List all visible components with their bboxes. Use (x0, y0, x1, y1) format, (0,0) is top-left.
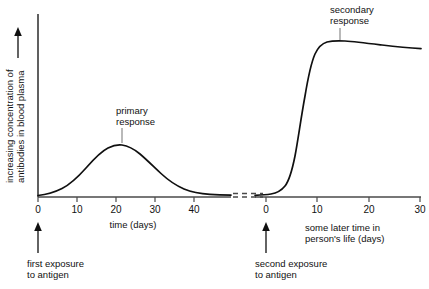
left-tick-label-0: 0 (35, 204, 41, 215)
left-tick-label-30: 30 (149, 204, 161, 215)
y-axis-title-line2: antibodies in blood plasma (15, 70, 26, 183)
first-exposure-annotation-line1: first exposure (27, 258, 84, 269)
left-tick-label-20: 20 (110, 204, 122, 215)
panel-left: 0 10 20 30 40 time (days) primary respon… (27, 105, 231, 280)
chart-svg: increasing concentration of antibodies i… (0, 0, 429, 289)
panel-right: 0 10 20 30 some later time in person's l… (255, 4, 426, 280)
second-exposure-annotation-line2: to antigen (255, 269, 297, 280)
first-exposure-arrow-icon (34, 222, 42, 253)
secondary-response-curve (255, 41, 421, 196)
primary-response-curve (38, 145, 231, 196)
immune-response-chart-figure: increasing concentration of antibodies i… (0, 0, 429, 289)
second-exposure-arrow-icon (262, 222, 270, 253)
y-axis-title-line1: increasing concentration of (4, 69, 15, 183)
primary-response-label-line2: response (116, 116, 155, 127)
right-x-axis-ticks (266, 197, 420, 202)
left-x-axis-ticks (38, 197, 194, 202)
primary-response-label-line1: primary (116, 105, 148, 116)
right-x-axis-title-line1: some later time in (305, 222, 380, 233)
right-tick-label-20: 20 (363, 204, 375, 215)
right-x-axis-title-line2: person's life (days) (305, 233, 384, 244)
secondary-response-label-line2: response (330, 15, 369, 26)
left-tick-label-10: 10 (71, 204, 83, 215)
right-tick-label-30: 30 (414, 204, 426, 215)
right-tick-label-10: 10 (311, 204, 323, 215)
right-tick-label-0: 0 (263, 204, 269, 215)
left-x-axis-title: time (days) (110, 219, 157, 230)
left-tick-label-40: 40 (188, 204, 200, 215)
second-exposure-annotation-line1: second exposure (255, 258, 327, 269)
up-arrow-icon (14, 27, 22, 58)
first-exposure-annotation-line2: to antigen (27, 269, 69, 280)
y-axis-group: increasing concentration of antibodies i… (4, 14, 38, 197)
secondary-response-label-line1: secondary (330, 4, 374, 15)
